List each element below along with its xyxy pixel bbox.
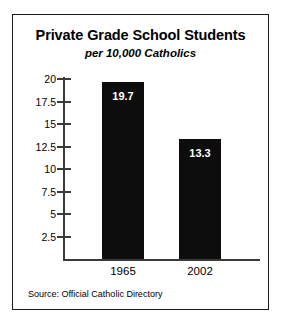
y-tick-mark: [57, 191, 71, 193]
bar-value-label: 13.3: [179, 147, 221, 159]
x-axis-line: [63, 259, 260, 261]
x-axis-label-1965: 1965: [102, 265, 144, 277]
y-tick-label: 17.5: [16, 96, 56, 108]
y-tick-label: 10: [16, 163, 56, 175]
chart-frame: Private Grade School Students per 10,000…: [12, 14, 269, 310]
y-tick-label: 7.5: [16, 186, 56, 198]
plot-area: 2017.51512.5107.552.5 19.713.3 19652002: [13, 15, 268, 309]
y-tick-label: 15: [16, 118, 56, 130]
bar-1965[interactable]: 19.7: [102, 82, 144, 259]
y-tick-mark: [57, 101, 71, 103]
y-tick-label: 2.5: [16, 231, 56, 243]
x-axis-label-2002: 2002: [179, 265, 221, 277]
y-tick-mark: [57, 168, 71, 170]
source-note: Source: Official Catholic Directory: [28, 289, 162, 299]
y-tick-label: 12.5: [16, 141, 56, 153]
y-tick-mark: [57, 78, 71, 80]
y-tick-label: 20: [16, 73, 56, 85]
y-tick-label: 5: [16, 208, 56, 220]
y-tick-mark: [57, 236, 71, 238]
y-tick-mark: [57, 123, 71, 125]
y-tick-mark: [57, 213, 71, 215]
bar-2002[interactable]: 13.3: [179, 139, 221, 259]
bar-value-label: 19.7: [102, 90, 144, 102]
y-tick-mark: [57, 146, 71, 148]
